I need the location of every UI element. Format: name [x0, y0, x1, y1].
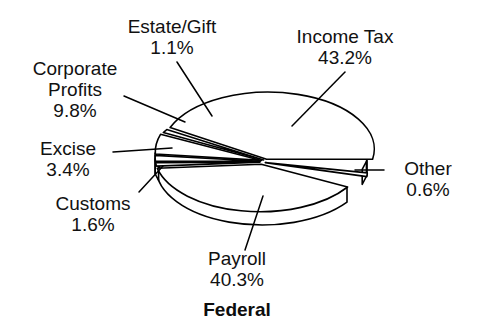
slice-label-excise: Excise 3.4% — [12, 138, 124, 180]
slice-label-other-name: Other — [384, 158, 472, 179]
slice-label-estate-gift-name: Estate/Gift — [104, 16, 240, 37]
slice-label-corporate-profits-name-line2: Profits — [8, 79, 142, 100]
slice-label-income-tax: Income Tax 43.2% — [275, 26, 415, 68]
slice-label-customs: Customs 1.6% — [30, 193, 156, 235]
slice-label-other-value: 0.6% — [384, 179, 472, 200]
slice-label-income-tax-name: Income Tax — [275, 26, 415, 47]
slice-label-customs-name: Customs — [30, 193, 156, 214]
slice-label-corporate-profits: Corporate Profits 9.8% — [8, 58, 142, 121]
slice-label-payroll-value: 40.3% — [176, 269, 298, 290]
slice-label-estate-gift: Estate/Gift 1.1% — [104, 16, 240, 58]
slice-label-excise-name: Excise — [12, 138, 124, 159]
slice-label-customs-value: 1.6% — [30, 214, 156, 235]
slice-label-estate-gift-value: 1.1% — [104, 37, 240, 58]
slice-label-income-tax-value: 43.2% — [275, 47, 415, 68]
slice-label-payroll: Payroll 40.3% — [176, 248, 298, 290]
slice-label-other: Other 0.6% — [384, 158, 472, 200]
chart-title: Federal — [179, 299, 295, 321]
slice-label-corporate-profits-value: 9.8% — [8, 100, 142, 121]
slice-label-corporate-profits-name-line1: Corporate — [8, 58, 142, 79]
slice-label-excise-value: 3.4% — [12, 159, 124, 180]
slice-label-payroll-name: Payroll — [176, 248, 298, 269]
